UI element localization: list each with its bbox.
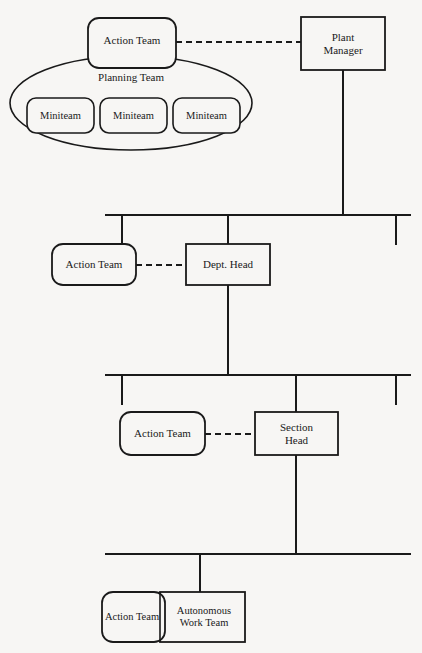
action-team-bottom-box[interactable] bbox=[102, 592, 165, 642]
dept-head-box[interactable] bbox=[186, 244, 270, 285]
miniteam-2-box[interactable] bbox=[100, 98, 167, 133]
diagram-canvas bbox=[0, 0, 422, 653]
miniteam-3-box[interactable] bbox=[173, 98, 240, 133]
section-head-box[interactable] bbox=[255, 412, 338, 455]
miniteam-1-box[interactable] bbox=[27, 98, 94, 133]
action-team-top-box[interactable] bbox=[88, 18, 176, 68]
plant-manager-box[interactable] bbox=[301, 17, 385, 70]
org-chart-diagram: Plant Manager Action Team Planning Team … bbox=[0, 0, 422, 653]
action-team-section-box[interactable] bbox=[120, 412, 205, 455]
action-team-dept-box[interactable] bbox=[52, 244, 136, 285]
autonomous-work-team-box[interactable] bbox=[160, 592, 245, 642]
